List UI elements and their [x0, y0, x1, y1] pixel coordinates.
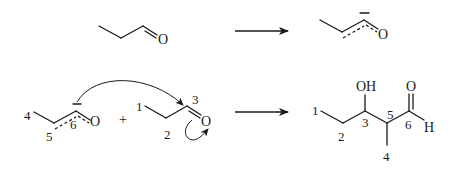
carbon-number-3: 3 — [362, 115, 369, 130]
carbon-number-2: 2 — [338, 129, 345, 144]
carbon-number-6: 6 — [70, 117, 77, 132]
carbon-number-4: 4 — [24, 108, 31, 123]
carbon-number-1: 1 — [312, 103, 319, 118]
oxygen-atom: O — [158, 32, 168, 47]
oxygen-atom: O — [201, 114, 211, 129]
carbon-number-6: 6 — [405, 117, 412, 132]
oxygen-atom: O — [90, 114, 100, 129]
oxygen-atom: O — [406, 79, 416, 94]
carbon-number-2: 2 — [164, 127, 171, 142]
aldol-product: 1 OH O H 2 3 4 5 6 — [312, 79, 434, 164]
carbon-number-3: 3 — [192, 92, 199, 107]
plus-sign: + — [119, 112, 127, 127]
carbon-number-4: 4 — [383, 149, 390, 164]
electron-flow-arrow — [77, 81, 183, 105]
carbon-number-5: 5 — [387, 107, 394, 122]
carbon-number-5: 5 — [46, 129, 53, 144]
reaction-diagram: O O 4 O 5 6 + 1 O 2 3 — [0, 0, 462, 177]
propanal-electrophile: 1 O 2 3 — [136, 92, 211, 142]
hydroxyl-group: OH — [356, 79, 376, 94]
carbon-number-1: 1 — [136, 99, 143, 114]
enolate-nucleophile: 4 O 5 6 — [24, 104, 100, 144]
enolate-molecule: O — [320, 13, 388, 42]
hydrogen-atom: H — [424, 120, 434, 135]
propanal-molecule: O — [99, 26, 168, 47]
oxygen-atom: O — [378, 27, 388, 42]
